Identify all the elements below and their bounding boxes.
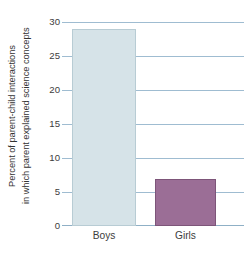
- y-tick-label: 25: [38, 51, 60, 61]
- y-axis-tick-labels: 30 25 20 15 10 5 0: [36, 22, 60, 226]
- x-axis-labels: Boys Girls: [62, 231, 244, 251]
- y-tick-label: 5: [38, 187, 60, 197]
- bar-boys: [72, 29, 136, 226]
- y-tick-label: 0: [38, 221, 60, 231]
- y-axis-title-line-2: in which parent explained science concep…: [20, 0, 34, 232]
- plot-area: [62, 22, 244, 226]
- y-tick-label: 30: [38, 17, 60, 27]
- y-tick-label: 20: [38, 85, 60, 95]
- y-tick-label: 10: [38, 153, 60, 163]
- y-axis-title-line-1: Percent of parent-child interactions: [6, 0, 20, 232]
- x-label-girls: Girls: [155, 231, 216, 241]
- y-tick-label: 15: [38, 119, 60, 129]
- gridline-30: [62, 22, 244, 23]
- x-label-boys: Boys: [72, 231, 136, 241]
- bar-chart: Percent of parent-child interactions in …: [0, 0, 252, 255]
- bar-girls: [155, 179, 216, 226]
